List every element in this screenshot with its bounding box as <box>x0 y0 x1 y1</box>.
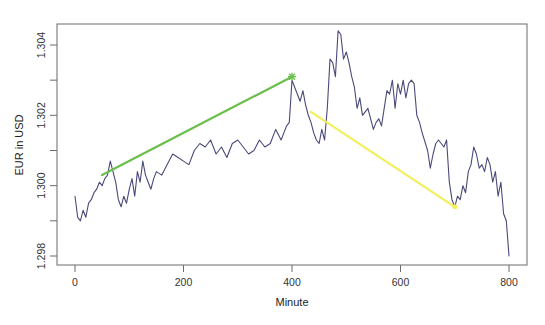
y-tick-label: 1.304 <box>35 32 47 58</box>
plot-frame <box>57 24 527 265</box>
x-tick-label: 0 <box>72 276 78 288</box>
y-tick-label: 1.298 <box>35 243 47 269</box>
x-tick-label: 400 <box>283 276 301 288</box>
x-axis: 0200400600800 <box>72 265 518 288</box>
y-axis-label: EUR in USD <box>13 114 25 175</box>
y-tick-label: 1.302 <box>35 102 47 128</box>
x-tick-label: 800 <box>500 276 518 288</box>
y-axis: 1.2981.3001.3021.304 <box>35 32 57 269</box>
asterisk-marker-icon <box>288 73 296 81</box>
y-tick-label: 1.300 <box>35 172 47 198</box>
line-chart: 1.2981.3001.3021.304 0200400600800 Minut… <box>0 0 545 325</box>
x-tick-label: 200 <box>175 276 193 288</box>
x-tick-label: 600 <box>392 276 410 288</box>
x-axis-label: Minute <box>275 296 308 308</box>
downtrend-end-marker <box>452 204 457 209</box>
